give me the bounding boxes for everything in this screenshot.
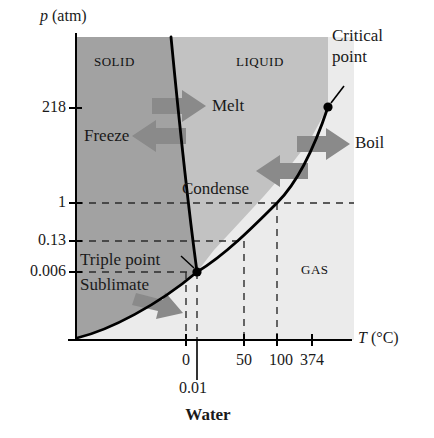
region-label-solid: SOLID	[94, 55, 135, 68]
triple-point-dot	[192, 267, 201, 276]
x-tick-label-0: 0	[176, 352, 196, 368]
annotation-triple-point: Triple point	[80, 251, 160, 268]
y-tick-label-013: 0.13	[0, 232, 66, 248]
x-axis-unit: (°C)	[371, 329, 399, 346]
phase-diagram-figure: p (atm) T (°C) 218 1 0.13 0.006 0 50 100…	[0, 0, 434, 438]
x-axis-symbol: T	[358, 329, 367, 346]
region-label-liquid: LIQUID	[236, 55, 284, 68]
critical-point-dot	[323, 102, 332, 111]
process-label-sublimate: Sublimate	[80, 276, 149, 293]
y-tick-label-218: 218	[0, 99, 66, 115]
critical-point-line-1: Critical	[332, 27, 383, 45]
x-tick-label-374: 374	[294, 352, 330, 368]
annotation-critical-point: Critical point	[332, 27, 383, 66]
process-label-boil: Boil	[355, 134, 384, 151]
critical-point-line-2: point	[332, 48, 383, 66]
process-label-freeze: Freeze	[84, 127, 129, 144]
process-label-melt: Melt	[212, 97, 244, 114]
y-axis-label: p (atm)	[40, 8, 87, 24]
y-tick-label-1: 1	[0, 194, 66, 210]
process-label-condense: Condense	[182, 180, 249, 197]
y-tick-label-0006: 0.006	[0, 263, 66, 279]
y-axis-unit: (atm)	[52, 7, 87, 24]
x-tick-label-50: 50	[229, 352, 259, 368]
region-label-gas: GAS	[301, 263, 329, 276]
x-tick-label-001: 0.01	[168, 380, 218, 396]
diagram-canvas	[0, 0, 434, 438]
figure-caption: Water	[163, 406, 253, 423]
y-axis-symbol: p	[40, 7, 48, 24]
x-axis-label: T (°C)	[358, 330, 399, 346]
